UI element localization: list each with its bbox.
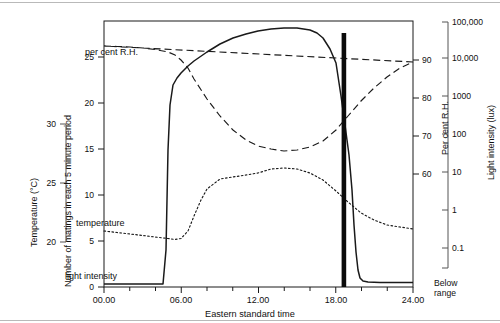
below-range-line1: Below bbox=[434, 278, 457, 288]
matings-axis-ticks bbox=[98, 57, 104, 287]
temperature-tick-30: 30 bbox=[34, 120, 56, 129]
light-tick-10000: 10,000 bbox=[452, 54, 478, 63]
x-tick-0: 00.00 bbox=[86, 296, 122, 305]
light-tick-0-1: 0.1 bbox=[452, 244, 464, 253]
below-range-line2: range bbox=[434, 288, 456, 298]
matings-tick-10: 10 bbox=[72, 191, 94, 200]
light-tick-100: 100 bbox=[452, 130, 466, 139]
x-axis-title: Eastern standard time bbox=[205, 310, 295, 319]
x-tick-2: 12.00 bbox=[240, 296, 276, 305]
annotation-temperature: temperature bbox=[76, 219, 125, 228]
x-tick-3: 18.00 bbox=[318, 296, 354, 305]
light-tick-1000: 1000 bbox=[452, 92, 471, 101]
light-tick-100000: 100,000 bbox=[452, 18, 483, 27]
matings-axis-title: Number of matings in each 5 minute perio… bbox=[64, 115, 73, 287]
x-tick-4: 24.00 bbox=[395, 296, 431, 305]
light-axis-title: Light intensity (lux) bbox=[487, 105, 496, 180]
temperature-axis-title: Temperature (°C) bbox=[30, 178, 39, 247]
light-tick-1: 1 bbox=[452, 206, 457, 215]
figure-root: 00.00 06.00 12.00 18.00 24.00 Eastern st… bbox=[0, 0, 500, 323]
matings-tick-15: 15 bbox=[72, 145, 94, 154]
humidity-tick-60: 60 bbox=[422, 170, 432, 179]
annotation-light-intensity: light intensity bbox=[65, 272, 117, 281]
matings-tick-0: 0 bbox=[72, 283, 94, 292]
x-tick-1: 06.00 bbox=[163, 296, 199, 305]
matings-bar bbox=[342, 33, 347, 287]
humidity-axis-title: Per cent R.H. bbox=[441, 101, 450, 155]
matings-tick-20: 20 bbox=[72, 99, 94, 108]
humidity-tick-90: 90 bbox=[422, 56, 432, 65]
x-axis-ticks bbox=[104, 287, 413, 293]
humidity-tick-70: 70 bbox=[422, 132, 432, 141]
light-tick-10: 10 bbox=[452, 168, 462, 177]
series-humidity bbox=[104, 46, 413, 151]
series-light-intensity bbox=[104, 28, 413, 284]
annotation-humidity: per cent R.H. bbox=[85, 48, 138, 57]
series-temperature bbox=[104, 168, 413, 240]
plot-frame bbox=[104, 21, 413, 287]
matings-tick-5: 5 bbox=[72, 237, 94, 246]
humidity-tick-80: 80 bbox=[422, 94, 432, 103]
humidity-axis-ticks bbox=[413, 60, 419, 174]
